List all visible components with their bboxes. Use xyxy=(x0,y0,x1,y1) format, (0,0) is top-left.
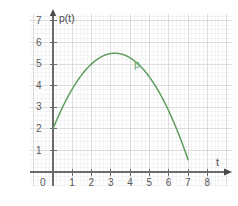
x-tick-label-6: 6 xyxy=(166,178,172,188)
x-tick-label-1: 1 xyxy=(69,178,75,188)
x-tick-label-3: 3 xyxy=(108,178,114,188)
x-axis-title: t xyxy=(216,157,219,168)
y-tick-label-4: 4 xyxy=(36,81,42,91)
y-tick-label-2: 2 xyxy=(36,124,42,134)
major-gridlines xyxy=(30,14,232,186)
y-tick-label-5: 5 xyxy=(36,59,42,69)
y-tick-label-7: 7 xyxy=(36,16,42,26)
x-tick-label-5: 5 xyxy=(147,178,153,188)
x-tick-label-0: 0 xyxy=(40,178,46,188)
function-curve-p xyxy=(53,53,188,160)
y-axis xyxy=(50,9,57,186)
y-tick-label-3: 3 xyxy=(36,102,42,112)
x-tick-label-8: 8 xyxy=(204,178,210,188)
y-tick-label-1: 1 xyxy=(36,146,42,156)
x-tick-label-4: 4 xyxy=(127,178,133,188)
minor-gridlines xyxy=(30,14,232,186)
x-axis xyxy=(30,169,232,176)
x-tick-label-7: 7 xyxy=(185,178,191,188)
function-graph-chart: 7 6 5 4 3 2 1 0 1 2 3 4 5 6 7 8 p(t) t p xyxy=(0,0,238,206)
x-tick-label-2: 2 xyxy=(89,178,95,188)
y-axis-title: p(t) xyxy=(59,13,75,24)
y-tick-label-6: 6 xyxy=(36,38,42,48)
curve-label-p: p xyxy=(134,59,140,70)
